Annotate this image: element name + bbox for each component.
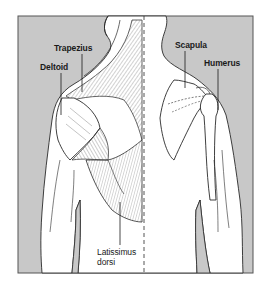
label-deltoid: Deltoid (40, 63, 68, 72)
label-trapezius: Trapezius (54, 44, 92, 53)
label-latissimus-line2: dorsi (97, 258, 115, 267)
label-scapula: Scapula (175, 41, 207, 50)
label-humerus: Humerus (204, 59, 240, 68)
label-latissimus-line1: Latissimus (97, 248, 136, 257)
